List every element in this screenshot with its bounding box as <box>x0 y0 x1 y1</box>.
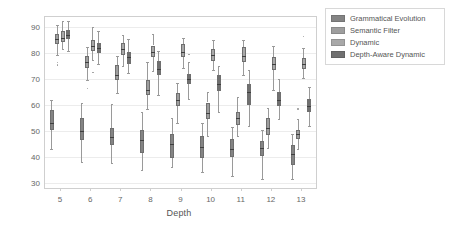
box-whisker <box>279 106 280 119</box>
plot-area: 30405060708090 5678910111213 <box>44 16 317 189</box>
legend-item[interactable]: Depth-Aware Dynamic <box>331 49 440 60</box>
box-whisker-cap <box>67 51 70 52</box>
box-whisker-cap <box>278 79 281 80</box>
x-tick-mark <box>60 188 61 191</box>
legend-swatch <box>331 51 345 58</box>
box-whisker-cap <box>248 70 251 71</box>
box-whisker-cap <box>97 31 100 32</box>
x-tick-label: 13 <box>296 195 305 204</box>
box-median <box>187 79 191 80</box>
box-whisker-cap <box>218 112 221 113</box>
x-tick-label: 11 <box>237 195 245 204</box>
box-whisker <box>249 105 250 126</box>
box-whisker-cap <box>248 126 251 127</box>
box-whisker-cap <box>127 73 130 74</box>
box-whisker <box>218 91 219 112</box>
box-whisker-cap <box>67 21 70 22</box>
x-axis-label: Depth <box>40 208 318 218</box>
x-tick-label: 8 <box>148 195 152 204</box>
legend-item[interactable]: Dynamic <box>331 37 440 48</box>
legend-swatch <box>331 39 345 46</box>
legend-swatch <box>331 15 345 22</box>
y-tick-label: 60 <box>31 101 40 110</box>
y-tick-label: 50 <box>31 127 40 136</box>
x-tick-mark <box>181 188 182 191</box>
box-median <box>277 100 281 101</box>
box-rect <box>217 75 221 91</box>
box-outlier <box>188 54 190 56</box>
boxplot-figure: Successes 30405060708090 5678910111213 D… <box>0 0 449 230</box>
x-tick-mark <box>241 188 242 191</box>
x-tick-mark <box>301 188 302 191</box>
y-axis-label: Successes <box>2 0 16 28</box>
box-whisker <box>128 39 129 52</box>
box-median <box>247 92 251 93</box>
legend-swatch <box>331 27 345 34</box>
box-whisker <box>309 112 310 126</box>
box-whisker-cap <box>278 119 281 120</box>
legend: Grammatical EvolutionSemantic FilterDyna… <box>325 8 445 65</box>
legend-label: Dynamic <box>350 38 379 47</box>
x-tick-mark <box>211 188 212 191</box>
box-whisker <box>309 87 310 99</box>
box-whisker <box>128 64 129 73</box>
box-whisker-cap <box>127 39 130 40</box>
y-tick-label: 90 <box>31 23 40 32</box>
box-median <box>157 69 161 70</box>
legend-label: Depth-Aware Dynamic <box>350 50 425 59</box>
x-tick-label: 12 <box>266 195 275 204</box>
box-whisker <box>279 79 280 92</box>
box-whisker <box>158 51 159 61</box>
x-tick-label: 6 <box>88 195 92 204</box>
box-whisker-cap <box>218 66 221 67</box>
x-tick-label: 10 <box>206 195 215 204</box>
box-whisker <box>68 21 69 30</box>
box-whisker <box>188 62 189 74</box>
y-tick-label: 70 <box>31 75 40 84</box>
box-series <box>45 17 316 188</box>
box-whisker-cap <box>157 51 160 52</box>
legend-label: Semantic Filter <box>350 26 400 35</box>
box-whisker-cap <box>308 87 311 88</box>
x-tick-label: 9 <box>178 195 182 204</box>
box-whisker-cap <box>97 64 100 65</box>
box-whisker <box>188 84 189 98</box>
y-tick-label: 80 <box>31 49 40 58</box>
box-whisker-cap <box>308 126 311 127</box>
box-whisker-cap <box>188 99 191 100</box>
box-whisker <box>218 66 219 75</box>
legend-item[interactable]: Grammatical Evolution <box>331 13 440 24</box>
box-whisker-cap <box>188 62 191 63</box>
legend-item[interactable]: Semantic Filter <box>331 25 440 36</box>
box-median <box>307 106 311 107</box>
x-tick-mark <box>150 188 151 191</box>
legend-label: Grammatical Evolution <box>350 14 425 23</box>
box-whisker <box>68 39 69 51</box>
box-median <box>97 48 101 49</box>
box-whisker <box>158 75 159 94</box>
box-rect <box>307 99 311 112</box>
box-median <box>217 84 221 85</box>
box-rect <box>247 84 251 105</box>
box-median <box>127 57 131 58</box>
box-whisker <box>98 53 99 63</box>
x-tick-label: 7 <box>118 195 122 204</box>
box-whisker <box>98 31 99 43</box>
x-tick-mark <box>271 188 272 191</box>
box-median <box>66 35 70 36</box>
x-tick-mark <box>90 188 91 191</box>
x-tick-label: 5 <box>58 195 62 204</box>
box-whisker <box>249 70 250 84</box>
x-tick-mark <box>120 188 121 191</box>
y-tick-label: 40 <box>31 152 40 161</box>
y-tick-label: 30 <box>31 178 40 187</box>
box-whisker-cap <box>157 95 160 96</box>
